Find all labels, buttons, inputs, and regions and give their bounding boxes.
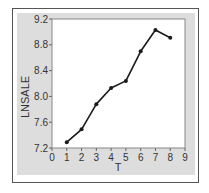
data-point-marker — [94, 102, 98, 106]
x-tick-label: 8 — [167, 152, 173, 163]
x-tick-label: 2 — [79, 152, 85, 163]
data-point-marker — [153, 28, 157, 32]
y-tick-label: 8.4 — [34, 65, 48, 76]
x-axis-title: T — [115, 161, 122, 173]
y-tick-label: 7.6 — [34, 117, 48, 128]
x-tick-label: 3 — [94, 152, 100, 163]
x-tick-label: 7 — [153, 152, 159, 163]
data-point-marker — [124, 79, 128, 83]
x-tick-label: 9 — [182, 152, 188, 163]
y-tick-label: 8.8 — [34, 39, 48, 50]
data-point-marker — [65, 140, 69, 144]
y-tick-label: 7.2 — [34, 143, 48, 154]
line-chart: 7.27.68.08.48.89.2 0123456789 T LNSALE — [0, 0, 209, 193]
x-tick-label: 1 — [64, 152, 70, 163]
x-tick-label: 6 — [138, 152, 144, 163]
x-tick-label: 0 — [49, 152, 55, 163]
data-point-marker — [168, 36, 172, 40]
x-tick-label: 5 — [123, 152, 129, 163]
y-tick-label: 8.0 — [34, 91, 48, 102]
data-point-marker — [139, 49, 143, 53]
data-point-marker — [80, 127, 84, 131]
y-axis-title: LNSALE — [19, 76, 31, 118]
y-axis: 7.27.68.08.48.89.2 — [34, 14, 52, 154]
data-point-marker — [109, 86, 113, 90]
plot-area — [52, 19, 185, 148]
x-tick-label: 4 — [108, 152, 114, 163]
y-tick-label: 9.2 — [34, 14, 48, 25]
